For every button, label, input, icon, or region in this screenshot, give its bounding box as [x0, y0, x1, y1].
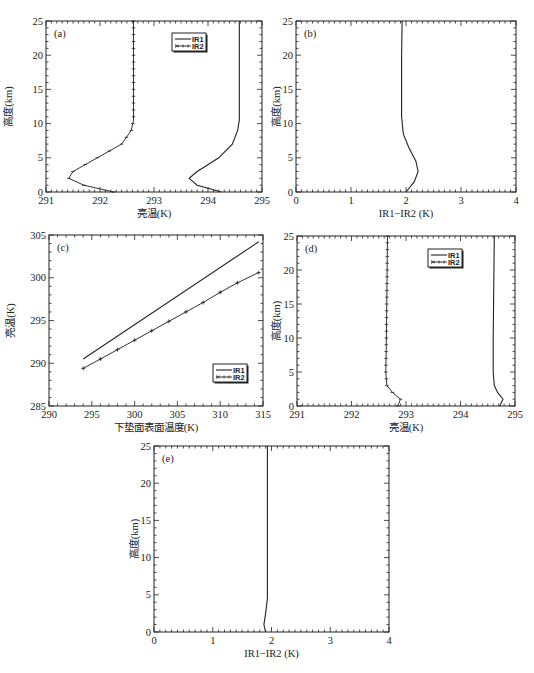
x-tick-label: 293: [146, 195, 162, 206]
chart-panel-e: 012340510152025IR1−IR2 (K)高度(km)(e): [128, 441, 392, 661]
panel-label: (e): [162, 453, 174, 465]
y-tick-label: 290: [30, 358, 46, 369]
series-line-ir2: [386, 236, 401, 406]
y-tick-label: 285: [30, 401, 46, 412]
y-tick-label: 0: [38, 187, 43, 198]
plot-frame: [46, 21, 262, 192]
legend-label-ir2: IR2: [448, 258, 460, 267]
x-tick-label: 1: [210, 635, 215, 646]
x-tick-label: 0: [151, 635, 156, 646]
y-tick-label: 25: [283, 16, 294, 27]
x-tick-label: 295: [254, 195, 270, 206]
x-axis-label: 下垫面表面温度(K): [114, 421, 199, 434]
y-axis-label: 高度(km): [128, 518, 141, 559]
y-tick-label: 20: [284, 265, 295, 276]
y-axis-label: 高度(km): [270, 86, 283, 127]
x-axis-label: 亮温(K): [137, 207, 172, 220]
x-tick-label: 4: [386, 635, 392, 646]
series-line-ir1-ir2: [402, 21, 419, 192]
x-tick-label: 4: [513, 195, 519, 206]
chart-panel-a: 2912922932942950510152025亮温(K)高度(km)(a)I…: [2, 16, 270, 221]
y-tick-label: 10: [284, 333, 295, 344]
y-tick-label: 25: [33, 16, 44, 27]
y-tick-label: 15: [141, 515, 152, 526]
legend: IR1IR2: [172, 33, 208, 53]
series-line-ir1-ir2: [264, 446, 268, 632]
y-tick-label: 10: [283, 118, 294, 129]
x-tick-label: 294: [200, 195, 217, 206]
x-tick-label: 1: [348, 195, 353, 206]
x-tick-label: 292: [344, 409, 360, 420]
x-tick-label: 300: [127, 409, 143, 420]
y-tick-label: 295: [30, 315, 46, 326]
x-axis-label: IR1−IR2 (K): [244, 648, 299, 660]
y-tick-label: 10: [141, 552, 152, 563]
series-line-ir2: [83, 273, 259, 369]
x-tick-label: 3: [328, 635, 333, 646]
x-tick-label: 0: [293, 195, 298, 206]
x-tick-label: 294: [453, 409, 470, 420]
y-axis-label: 亮温(K): [4, 303, 17, 338]
legend: IR1IR2: [428, 249, 464, 269]
y-tick-label: 5: [38, 152, 43, 163]
y-tick-label: 0: [289, 401, 294, 412]
x-tick-label: 3: [458, 195, 463, 206]
panel-label: (b): [304, 28, 317, 40]
y-axis-label: 高度(km): [2, 86, 15, 127]
x-tick-label: 2: [269, 635, 274, 646]
series-line-ir1: [493, 236, 503, 406]
x-tick-label: 295: [84, 409, 100, 420]
y-tick-label: 0: [146, 627, 151, 638]
y-tick-label: 5: [146, 589, 151, 600]
panel-label: (a): [54, 28, 66, 40]
chart-panel-c: 290295300305310315285290295300305下垫面表面温度…: [4, 230, 271, 435]
chart-panel-b: 012340510152025IR1−IR2 (K)高度(km)(b): [270, 16, 519, 221]
panel-label: (d): [305, 243, 318, 255]
y-tick-label: 20: [283, 50, 294, 61]
x-tick-label: 305: [170, 409, 186, 420]
panel-label: (c): [57, 242, 69, 254]
x-tick-label: 315: [255, 409, 271, 420]
x-tick-label: 293: [398, 409, 414, 420]
y-tick-label: 0: [288, 187, 293, 198]
legend-label-ir2: IR2: [192, 42, 204, 51]
y-tick-label: 305: [30, 230, 46, 241]
series-line-ir2: [69, 21, 134, 192]
y-tick-label: 25: [141, 441, 152, 452]
y-tick-label: 20: [33, 50, 44, 61]
y-tick-label: 300: [30, 272, 46, 283]
y-tick-label: 15: [33, 84, 44, 95]
chart-panel-d: 2912922932942950510152025亮温(K)高度(km)(d)I…: [270, 231, 523, 435]
legend-label-ir2: IR2: [233, 373, 245, 382]
plot-frame: [154, 446, 389, 632]
x-tick-label: 292: [92, 195, 108, 206]
y-axis-label: 高度(km): [270, 300, 283, 341]
y-tick-label: 5: [289, 367, 294, 378]
x-axis-label: IR1−IR2 (K): [379, 208, 434, 220]
x-axis-label: 亮温(K): [389, 421, 424, 434]
x-tick-label: 295: [507, 409, 523, 420]
plot-frame: [296, 21, 516, 192]
legend: IR1IR2: [213, 364, 249, 384]
y-tick-label: 5: [288, 152, 293, 163]
y-tick-label: 20: [141, 478, 152, 489]
figure-canvas: 2912922932942950510152025亮温(K)高度(km)(a)I…: [0, 0, 534, 673]
y-tick-label: 15: [283, 84, 294, 95]
y-tick-label: 25: [284, 231, 295, 242]
y-tick-label: 15: [284, 299, 295, 310]
series-line-ir1: [83, 242, 259, 359]
x-tick-label: 2: [403, 195, 408, 206]
x-tick-label: 310: [212, 409, 228, 420]
y-tick-label: 10: [33, 118, 44, 129]
plot-frame: [297, 236, 515, 406]
